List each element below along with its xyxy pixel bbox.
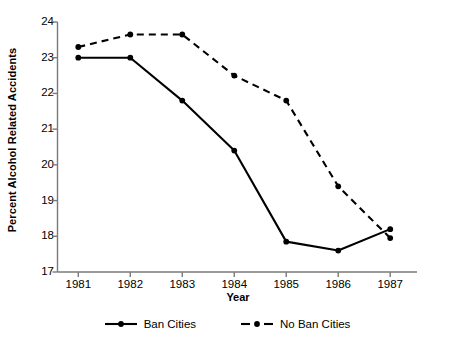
data-point-marker [283,239,289,245]
series-line [78,58,390,251]
data-point-marker [75,44,81,50]
data-point-marker [179,98,185,104]
legend-label-ban-cities: Ban Cities [144,318,196,330]
legend-item-no-ban-cities: No Ban Cities [240,318,350,330]
legend-label-no-ban-cities: No Ban Cities [280,318,350,330]
data-point-marker [335,183,341,189]
data-point-marker [75,55,81,61]
data-point-marker [283,98,289,104]
data-point-marker [231,148,237,154]
data-point-marker [387,235,393,241]
x-axis-ticks [78,272,390,277]
legend-swatch-dashed-line [240,318,274,330]
x-axis-title: Year [0,291,454,303]
y-axis-ticks [53,22,58,272]
data-point-marker [127,55,133,61]
chart-figure: Percent Alcohol Related Accidents 171819… [0,0,454,343]
legend-item-ban-cities: Ban Cities [104,318,196,330]
axis-lines [58,22,418,272]
data-point-marker [231,73,237,79]
series-line [78,35,390,239]
x-axis-title-text: Year [226,291,249,303]
data-point-marker [127,32,133,38]
data-point-marker [335,248,341,254]
legend-swatch-solid-line [104,318,138,330]
data-point-marker [387,226,393,232]
chart-legend: Ban Cities No Ban Cities [0,318,454,330]
data-series-layer [75,32,393,254]
data-point-marker [179,32,185,38]
